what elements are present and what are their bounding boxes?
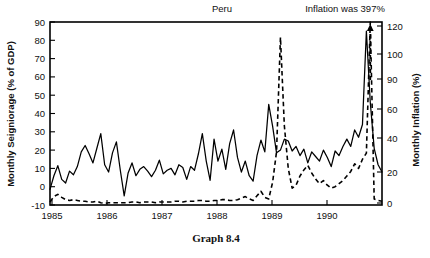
x-tick-label-5: 1990 — [316, 210, 337, 221]
x-tick-label-4: 1989 — [261, 210, 282, 221]
series-group — [50, 22, 382, 203]
right-tick-label-3: 60 — [387, 104, 398, 115]
left-tick-label-8: 10 — [34, 163, 45, 174]
right-tick-label-1: 100 — [387, 49, 403, 60]
plot-frame — [50, 22, 382, 205]
series-inflation-line — [50, 22, 382, 203]
right-tick-label-6: 0 — [387, 198, 392, 209]
right-tick-label-5: 20 — [387, 167, 398, 178]
left-tick-label-4: 50 — [34, 90, 45, 101]
chart-figure: 90 80 70 60 50 40 30 20 10 0 -10 120 100… — [0, 0, 430, 258]
x-tick-label-2: 1987 — [151, 210, 172, 221]
chart-canvas: 90 80 70 60 50 40 30 20 10 0 -10 120 100… — [0, 0, 430, 258]
right-axis-title: Monthly Inflation (%) — [410, 73, 421, 166]
left-tick-label-10: -10 — [31, 200, 45, 211]
left-tick-label-2: 70 — [34, 53, 45, 64]
left-tick-label-5: 40 — [34, 108, 45, 119]
series-seigniorage-line — [50, 31, 382, 196]
figure-caption: Graph 8.4 — [192, 232, 240, 244]
x-tick-label-3: 1988 — [206, 210, 227, 221]
left-tick-label-3: 60 — [34, 71, 45, 82]
left-axis-title: Monthly Seigniorage (% of GDP) — [5, 41, 16, 187]
left-tick-label-9: 0 — [40, 181, 45, 192]
left-tick-label-7: 20 — [34, 145, 45, 156]
left-tick-label-1: 80 — [34, 35, 45, 46]
left-tick-label-6: 30 — [34, 126, 45, 137]
left-tick-label-0: 90 — [34, 17, 45, 28]
country-annotation: Peru — [212, 3, 232, 14]
right-tick-label-4: 40 — [387, 133, 398, 144]
right-tick-label-0: 120 — [387, 21, 403, 32]
x-tick-label-0: 1985 — [41, 210, 62, 221]
x-tick-label-1: 1986 — [96, 210, 117, 221]
right-tick-label-2: 90 — [387, 74, 398, 85]
inflation-offscale-annotation: Inflation was 397% — [305, 3, 385, 14]
